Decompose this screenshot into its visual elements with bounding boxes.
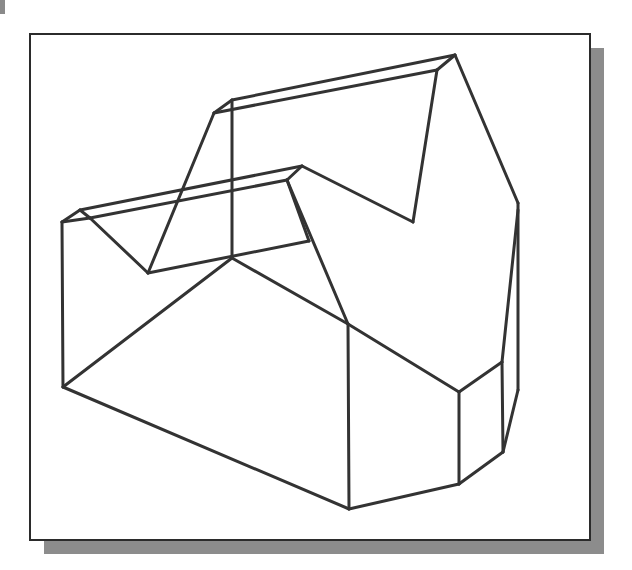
wireframe-edges (62, 55, 518, 509)
edge-R-U (349, 484, 459, 509)
edge-V-W (503, 390, 518, 452)
edge-I-Q (287, 180, 348, 324)
edge-O-T (502, 210, 518, 362)
edge-H-M (302, 166, 413, 222)
edge-T-V (502, 362, 503, 452)
edge-P-G (63, 258, 232, 387)
edge-Q-R (348, 324, 349, 509)
edge-U-V (459, 452, 503, 484)
edge-L-M (413, 70, 437, 222)
edge-F-K (232, 55, 455, 100)
edge-D-E (148, 113, 214, 273)
edge-D-J (148, 241, 309, 273)
edge-C-D (90, 218, 148, 273)
wireframe-drawing (0, 0, 632, 570)
edge-A-P (62, 222, 63, 387)
edge-G-Q (232, 258, 348, 324)
edge-E-L (214, 70, 437, 113)
edge-K-N (455, 55, 518, 203)
edge-Q-S (348, 324, 459, 392)
edge-C-I (90, 180, 287, 218)
edge-S-T (459, 362, 502, 392)
edge-P-R (63, 387, 349, 509)
